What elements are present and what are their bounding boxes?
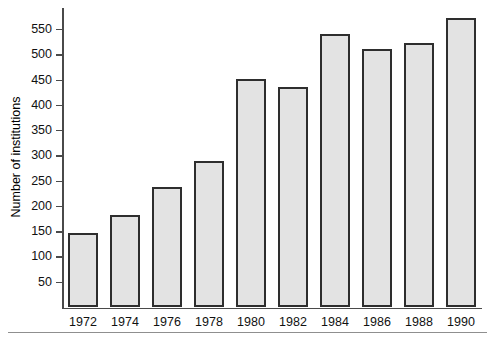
bar	[278, 87, 308, 307]
y-axis-tick-label: 250	[31, 172, 52, 190]
y-axis-tick-label: 150	[31, 222, 52, 240]
x-axis-tick-label: 1976	[146, 314, 188, 330]
y-axis-tick: 250	[56, 181, 62, 182]
x-axis-tick-label: 1980	[230, 314, 272, 330]
bar-chart: Number of institutions 50100150200250300…	[0, 0, 495, 339]
y-axis-tick-label: 300	[31, 146, 52, 164]
y-axis-tick: 300	[56, 155, 62, 156]
y-axis-tick: 450	[56, 80, 62, 81]
y-axis-tick: 150	[56, 231, 62, 232]
y-axis-tick: 400	[56, 105, 62, 106]
bar	[110, 215, 140, 307]
bar	[446, 18, 476, 307]
y-axis-tick-label: 400	[31, 96, 52, 114]
x-axis-tick-label: 1986	[356, 314, 398, 330]
y-axis-line	[62, 8, 64, 309]
y-axis-tick-label: 200	[31, 197, 52, 215]
y-axis-tick-label: 50	[38, 273, 52, 291]
x-axis-tick-label: 1982	[272, 314, 314, 330]
x-axis-tick-label: 1990	[440, 314, 482, 330]
bar	[320, 34, 350, 307]
bar	[236, 79, 266, 307]
plot-area: 50100150200250300350400450500550 1972197…	[62, 8, 482, 309]
y-axis-tick: 500	[56, 54, 62, 55]
bar	[152, 187, 182, 307]
y-axis-tick: 100	[56, 256, 62, 257]
y-axis-tick-label: 450	[31, 71, 52, 89]
y-axis-tick-label: 550	[31, 20, 52, 38]
bar	[362, 49, 392, 307]
y-axis-tick: 200	[56, 206, 62, 207]
bar	[194, 161, 224, 308]
bar	[404, 43, 434, 307]
x-axis-line	[62, 308, 482, 310]
x-axis-tick-label: 1972	[62, 314, 104, 330]
bottom-divider	[8, 332, 487, 333]
y-axis-title: Number of institutions	[6, 2, 26, 312]
y-axis-tick: 550	[56, 29, 62, 30]
y-axis-tick-label: 350	[31, 121, 52, 139]
y-axis-tick: 50	[56, 282, 62, 283]
y-axis-tick-label: 500	[31, 45, 52, 63]
y-axis-tick-label: 100	[31, 247, 52, 265]
y-axis-tick: 350	[56, 130, 62, 131]
bar	[68, 233, 98, 307]
x-axis-tick-label: 1974	[104, 314, 146, 330]
x-axis-tick-label: 1988	[398, 314, 440, 330]
x-axis-tick-label: 1984	[314, 314, 356, 330]
x-axis-tick-label: 1978	[188, 314, 230, 330]
